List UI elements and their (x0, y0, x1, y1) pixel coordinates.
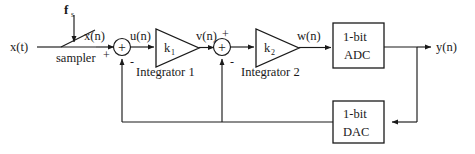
label-wn: w(n) (297, 29, 321, 43)
label-summer1-center: + (118, 40, 126, 55)
label-un: u(n) (130, 29, 151, 43)
label-sample-rate-subscript: s (71, 10, 74, 19)
diagram-svg: f s x(t) sampler x(n) + + - u(n) k 1 Int… (0, 0, 475, 154)
label-integrator-1: Integrator 1 (136, 65, 195, 79)
label-adc-line1: 1-bit (343, 30, 367, 44)
label-input-xt: x(t) (10, 40, 28, 54)
label-dac-line2: DAC (343, 125, 369, 139)
label-summer2-center: + (218, 40, 226, 55)
gain-block-k2 (256, 29, 299, 67)
label-gain-k2: k (264, 41, 271, 55)
label-summer2-minus: - (230, 55, 234, 69)
label-dac-line1: 1-bit (343, 107, 367, 121)
block-diagram-canvas: f s x(t) sampler x(n) + + - u(n) k 1 Int… (0, 0, 475, 154)
label-adc-line2: ADC (344, 48, 370, 62)
label-sampler: sampler (56, 51, 96, 65)
gain-block-k1 (156, 29, 199, 67)
label-gain-k1-subscript: 1 (171, 48, 175, 57)
label-summer1-minus: - (130, 55, 134, 69)
label-summer1-plus: + (103, 48, 110, 62)
label-gain-k2-subscript: 2 (271, 48, 275, 57)
label-output-yn: y(n) (436, 40, 457, 54)
label-gain-k1: k (164, 41, 171, 55)
label-summer2-plus: + (222, 27, 229, 41)
label-sample-rate: f (64, 2, 69, 17)
label-vn: v(n) (196, 29, 217, 43)
label-sampled-xn: x(n) (84, 29, 105, 43)
label-integrator-2: Integrator 2 (241, 65, 300, 79)
